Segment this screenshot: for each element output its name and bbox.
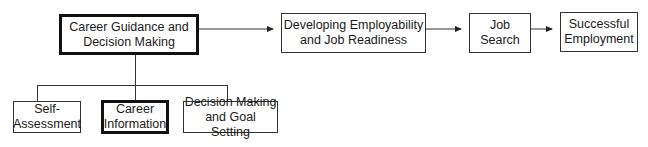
node-label: Career Guidance and Decision Making — [69, 20, 189, 50]
node-career-information: Career Information — [101, 100, 169, 134]
node-label: Developing Employability and Job Readine… — [284, 18, 424, 48]
node-label: Career Information — [104, 102, 167, 132]
node-developing-employability: Developing Employability and Job Readine… — [281, 13, 426, 53]
node-job-search: Job Search — [469, 13, 531, 53]
node-label: Decision Making and Goal Setting — [184, 95, 277, 140]
node-label: Self- Assessment — [13, 102, 81, 132]
node-label: Successful Employment — [564, 17, 633, 47]
node-successful-employment: Successful Employment — [560, 12, 638, 52]
node-career-guidance: Career Guidance and Decision Making — [59, 14, 199, 55]
node-decision-goal-setting: Decision Making and Goal Setting — [183, 101, 278, 133]
node-label: Job Search — [480, 18, 520, 48]
node-self-assessment: Self- Assessment — [13, 101, 81, 133]
